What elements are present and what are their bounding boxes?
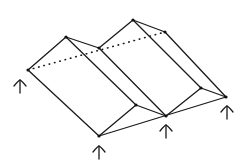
edge-back-peak-2-to-back-right (133, 20, 165, 32)
roof-vertices (26, 18, 227, 137)
vertex-front-valley (164, 114, 167, 117)
vertex-front-right (224, 95, 227, 98)
vertex-back-peak-1 (64, 35, 67, 38)
up-arrow-icon (14, 80, 26, 93)
vertex-front-peak-2 (199, 86, 202, 89)
hidden-edge-back-left-to-back-right (28, 32, 165, 70)
vertex-front-peak-1 (134, 103, 137, 106)
edge-back-valley-to-back-peak-2 (99, 20, 133, 48)
vertex-back-peak-2 (131, 18, 134, 21)
edge-back-peak-2-to-front-peak-2 (133, 20, 201, 88)
roof-sketch-canvas (0, 0, 248, 166)
support-arrows (14, 80, 233, 159)
edge-back-left-to-back-peak-1 (28, 37, 66, 70)
edge-back-right-to-front-right (165, 32, 226, 97)
edge-back-valley-to-front-valley (99, 48, 166, 116)
edge-front-peak-1-to-front-valley (136, 105, 166, 116)
up-arrow-icon (93, 146, 105, 159)
edge-front-left-to-front-peak-1 (99, 105, 136, 136)
up-arrow-icon (221, 106, 233, 119)
up-arrow-icon (160, 125, 172, 138)
folded-plate-roof-diagram (0, 0, 248, 166)
edge-back-peak-1-to-front-peak-1 (66, 37, 136, 105)
vertex-back-valley (97, 46, 100, 49)
edge-back-left-to-front-left (28, 70, 99, 136)
vertex-back-right (163, 30, 166, 33)
roof-edges (28, 20, 226, 136)
edge-front-left-to-front-right (99, 97, 226, 136)
vertex-back-left (26, 68, 29, 71)
edge-front-valley-to-front-peak-2 (166, 88, 201, 116)
vertex-front-left (97, 134, 100, 137)
